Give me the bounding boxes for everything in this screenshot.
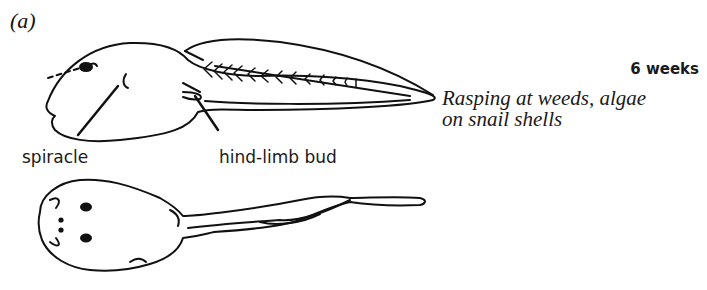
tadpole-dorsal-view bbox=[39, 180, 425, 271]
tadpole-side-view bbox=[46, 39, 434, 141]
age-label: 6 weeks bbox=[630, 60, 699, 78]
label-hind-limb-bud: hind-limb bud bbox=[219, 147, 337, 167]
label-spiracle: spiracle bbox=[22, 147, 88, 167]
feeding-description: Rasping at weeds, algae on snail shells bbox=[442, 88, 646, 130]
description-line-2: on snail shells bbox=[442, 109, 646, 130]
description-line-1: Rasping at weeds, algae bbox=[442, 88, 646, 109]
tadpole-illustration bbox=[0, 0, 707, 290]
